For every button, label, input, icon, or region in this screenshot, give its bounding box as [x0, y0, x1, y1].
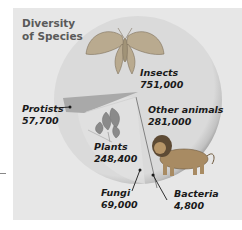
title-line-2: of Species — [22, 30, 83, 43]
label-bacteria-value: 4,800 — [174, 200, 219, 212]
label-protists: Protists 57,700 — [22, 103, 64, 127]
label-other-animals-name: Other animals — [148, 104, 223, 116]
label-bacteria-name: Bacteria — [174, 188, 219, 200]
label-other-animals: Other animals 281,000 — [148, 104, 223, 128]
label-fungi-name: Fungi — [101, 187, 138, 199]
protists-leader-dot — [69, 106, 72, 109]
label-insects: Insects 751,000 — [140, 67, 183, 91]
label-other-animals-value: 281,000 — [148, 116, 223, 128]
label-insects-value: 751,000 — [140, 79, 183, 91]
label-plants: Plants 248,400 — [94, 141, 137, 165]
title-line-1: Diversity — [22, 17, 83, 30]
label-insects-name: Insects — [140, 67, 183, 79]
edge-tick-mark — [0, 173, 6, 174]
label-fungi: Fungi 69,000 — [101, 187, 138, 211]
fungi-leader-dot — [139, 169, 142, 172]
label-plants-name: Plants — [94, 141, 137, 153]
label-protists-name: Protists — [22, 103, 64, 115]
label-bacteria: Bacteria 4,800 — [174, 188, 219, 212]
bacteria-leader-dot — [152, 174, 155, 177]
label-fungi-value: 69,000 — [101, 199, 138, 211]
label-plants-value: 248,400 — [94, 153, 137, 165]
chart-title: Diversity of Species — [22, 17, 83, 43]
label-protists-value: 57,700 — [22, 115, 64, 127]
